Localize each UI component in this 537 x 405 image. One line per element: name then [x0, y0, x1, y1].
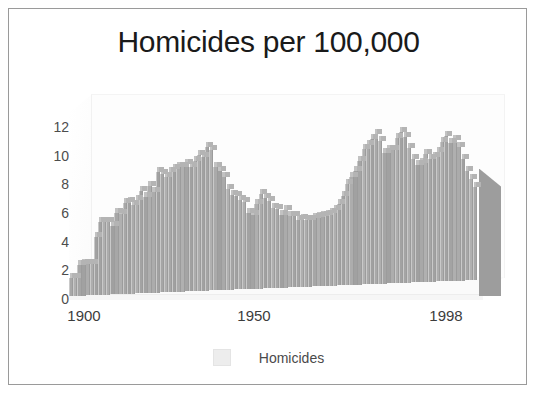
bar-side-face [155, 187, 160, 192]
bar [300, 219, 304, 287]
bar [221, 177, 225, 290]
bar [164, 177, 168, 293]
bar [419, 163, 423, 282]
bar [189, 167, 193, 292]
bar [238, 200, 242, 289]
bar-side-face [386, 148, 391, 153]
bar-side-face [97, 232, 102, 237]
bar [287, 216, 291, 287]
bar-side-face [258, 199, 263, 204]
bar [131, 205, 135, 294]
bar [465, 171, 469, 281]
y-axis-tick-4: 4 [35, 235, 69, 249]
bar [85, 264, 89, 295]
bar [118, 214, 122, 294]
bar [172, 169, 176, 292]
bar [333, 210, 337, 286]
bar-side-face [233, 190, 238, 195]
x-axis-tick-1950: 1950 [237, 307, 270, 324]
bar [444, 136, 448, 281]
bar [234, 196, 238, 289]
bar [246, 213, 250, 289]
bar [304, 220, 308, 287]
x-axis-tick-1900: 1900 [67, 307, 100, 324]
legend-label-homicides: Homicides [259, 350, 324, 366]
bar [201, 157, 205, 291]
bar [205, 147, 209, 291]
bar-side-face [72, 273, 77, 278]
x-axis-tick-1998: 1998 [429, 307, 462, 324]
bar-side-face [142, 186, 147, 191]
bar [366, 145, 370, 284]
bar-side-face [443, 137, 448, 142]
bar [452, 140, 456, 281]
bar [77, 265, 81, 296]
bar [279, 215, 283, 288]
bar-side-face [200, 150, 205, 155]
bar-side-face [283, 210, 288, 215]
bar [312, 218, 316, 286]
bar-side-face [221, 166, 226, 171]
bar-side-face [402, 127, 407, 132]
bar [135, 200, 139, 293]
bar [139, 191, 143, 293]
bar-side-face [81, 260, 86, 265]
plot-area [69, 94, 509, 304]
bar [275, 209, 279, 288]
bar [329, 213, 333, 286]
bar [73, 278, 77, 296]
y-axis-tick-6: 6 [35, 206, 69, 220]
bar [197, 155, 201, 291]
bar-side-face [460, 142, 465, 147]
bar-side-face [365, 144, 370, 149]
x-axis: 190019501998 [9, 307, 528, 331]
bar [456, 147, 460, 281]
bar [461, 159, 465, 281]
bar [259, 194, 263, 289]
bar [81, 264, 85, 295]
y-axis-tick-8: 8 [35, 177, 69, 191]
bar [423, 154, 427, 282]
bar [213, 167, 217, 290]
bar [292, 216, 296, 287]
bar-side-face [262, 189, 267, 194]
bar-side-face [126, 198, 131, 203]
bar [193, 161, 197, 292]
bar-side-face [266, 193, 271, 198]
bar [432, 157, 436, 282]
bar [123, 203, 127, 293]
bar-side-face [357, 166, 362, 171]
bar-side-face [208, 142, 213, 147]
bar [390, 150, 394, 284]
bar-series-homicides [69, 96, 509, 296]
y-axis-tick-0: 0 [35, 292, 69, 306]
bar [341, 196, 345, 285]
bar [217, 171, 221, 290]
bar [316, 217, 320, 287]
bar-side-face [101, 217, 106, 222]
bar-side-face [361, 156, 366, 161]
y-axis-tick-10: 10 [35, 149, 69, 163]
bar-side-face [348, 179, 353, 184]
bar-side-face [344, 191, 349, 196]
bar-side-face [291, 211, 296, 216]
bar [250, 215, 254, 289]
bar [143, 197, 147, 293]
bar [151, 192, 155, 293]
bar [283, 210, 287, 287]
bar-side-face [340, 199, 345, 204]
bar [349, 177, 353, 285]
bar [271, 208, 275, 288]
bar-side-face [225, 172, 230, 177]
bar [395, 138, 399, 283]
chart-frame: Homicides per 100,000 121086420 19001950… [8, 8, 527, 385]
legend-swatch-homicides [213, 349, 231, 366]
chart-page: Homicides per 100,000 121086420 19001950… [0, 0, 537, 405]
y-axis: 121086420 [25, 104, 69, 309]
bar-side-face [118, 208, 123, 213]
bar-side-face [398, 133, 403, 138]
bar [399, 132, 403, 283]
bar [94, 237, 98, 295]
bar-side-face [299, 215, 304, 220]
y-axis-tick-2: 2 [35, 263, 69, 277]
